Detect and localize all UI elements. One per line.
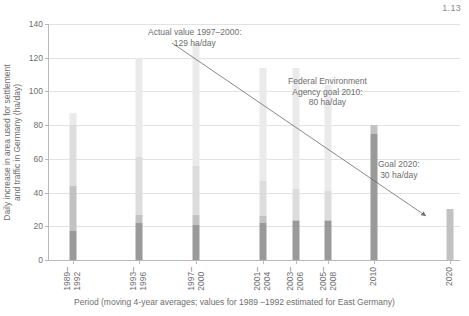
x-axis-tick [139,260,140,264]
annotation-actual-value-line-2: 129 ha/day [148,38,242,49]
bar-segment [193,166,200,215]
y-axis-tick-label: 100 [29,86,43,96]
y-axis-title-line-2: and traffic in Germany (ha/day) [12,24,22,261]
y-axis-tick-label: 20 [34,221,43,231]
y-axis-tick-label: 120 [29,53,43,63]
bar-segment [259,216,266,223]
bar-segment [325,220,332,222]
x-axis-category-year: 2001– [253,267,262,291]
bar-segment [259,68,266,181]
x-axis-category-label: 1993–1996 [122,267,156,291]
y-axis-tick-label: 40 [34,188,43,198]
bar-segment [446,209,453,260]
y-gridline [49,58,460,59]
annotation-goal-2020-line-2: 30 ha/day [378,170,420,181]
y-axis-tick-label: 0 [38,255,43,265]
x-axis-category-label: 1989–1992 [56,267,90,291]
y-gridline [49,91,460,92]
y-axis-title-line-1: Daily increase in area used for settleme… [2,24,12,261]
page-number: 1.13 [442,3,461,13]
x-axis-category-label: 2005–2008 [311,267,345,291]
bar-segment [193,43,200,166]
annotation-actual-value-line-1: Actual value 1997–2000: [148,27,242,38]
x-axis-category-year: 1993– [129,267,138,291]
x-axis-tick [196,260,197,264]
x-axis-category-label: 2010 [357,267,391,286]
x-axis-title: Period (moving 4-year averages; values f… [0,297,469,307]
bar-segment [259,223,266,260]
y-axis-tick-label: 60 [34,154,43,164]
y-gridline [49,193,460,194]
annotation-goal-2020: Goal 2020: 30 ha/day [378,159,420,180]
annotation-actual-value: Actual value 1997–2000: 129 ha/day [148,27,242,48]
bar-segment [292,221,299,260]
x-axis-category-label: 2001–2004 [246,267,280,291]
x-axis-category-year: 2004 [263,267,272,291]
bar-segment [135,157,142,214]
x-axis-tick [73,260,74,264]
x-axis-category-year: 1996 [139,267,148,291]
bar-segment [193,225,200,260]
annotation-federal-goal-line-1: Federal Environment [288,76,367,87]
y-axis-tick-label: 80 [34,120,43,130]
x-axis-category-year: 2005– [319,267,328,291]
x-axis-tick [296,260,297,264]
x-axis-category-year: 2008 [329,267,338,291]
chart-figure: 1.13 Daily increase in area used for set… [0,0,469,316]
y-axis-tick [45,159,49,160]
x-axis-tick [263,260,264,264]
x-axis-category-label: 1997–2000 [179,267,213,291]
y-gridline [49,125,460,126]
bar-segment [69,231,76,260]
y-axis-tick-label: 140 [29,19,43,29]
bar-segment [135,223,142,260]
bar-segment [135,58,142,157]
x-axis-category-year: 1992 [73,267,82,291]
bar-segment [370,125,377,133]
y-axis-tick [45,193,49,194]
bar [325,85,332,260]
bar-segment [292,220,299,222]
x-axis-tick [374,260,375,264]
annotation-federal-goal-line-2: Agency goal 2010: [288,87,367,98]
bar-segment [69,113,76,125]
bar-segment [292,189,299,219]
x-axis-category-year: 1997– [187,267,196,291]
y-axis-tick [45,260,49,261]
y-axis-tick [45,91,49,92]
x-axis-category-year: 2010 [369,267,378,286]
y-axis-title: Daily increase in area used for settleme… [2,24,16,261]
y-axis-tick [45,58,49,59]
x-axis-tick [328,260,329,264]
bar [446,209,453,260]
bar [193,43,200,260]
x-axis-category-label: 2020 [433,267,467,286]
x-axis-category-year: 2000 [197,267,206,291]
bar [259,68,266,260]
x-axis-category-year: 2020 [445,267,454,286]
plot-area: 0204060801001201401989–19921993–19961997… [48,24,460,261]
x-axis-tick [450,260,451,264]
x-axis-category-year: 2003– [286,267,295,291]
bar-segment [325,191,332,220]
annotation-federal-goal-line-3: 80 ha/day [288,97,367,108]
bar-segment [259,181,266,216]
y-axis-tick [45,125,49,126]
bar [69,113,76,260]
bar [135,58,142,260]
x-axis-category-year: 2006 [296,267,305,291]
y-axis-tick [45,24,49,25]
y-gridline [49,226,460,227]
bar-segment [69,125,76,186]
bar-segment [69,186,76,232]
y-gridline [49,24,460,25]
bar-segment [135,215,142,223]
bar-segment [370,134,377,260]
x-axis-category-label: 2003–2006 [279,267,313,291]
annotation-goal-2020-line-1: Goal 2020: [378,159,420,170]
bar [370,125,377,260]
x-axis-category-year: 1989– [63,267,72,291]
y-axis-tick [45,226,49,227]
bar-segment [325,221,332,260]
annotation-federal-goal: Federal Environment Agency goal 2010: 80… [288,76,367,108]
